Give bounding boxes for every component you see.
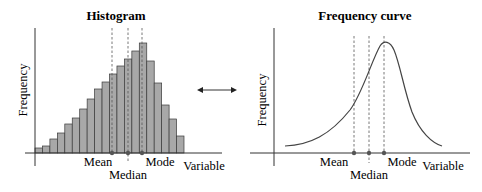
figure-canvas: Histogram Frequency Mean Median Mode Var… xyxy=(0,0,482,192)
histogram-bar xyxy=(42,146,49,153)
frequency-curve-line xyxy=(285,42,442,146)
curve-mean-dot xyxy=(352,151,356,155)
histogram-mode-label: Mode xyxy=(145,155,175,169)
frequency-curve-title: Frequency curve xyxy=(318,8,411,23)
histogram-median-label: Median xyxy=(109,168,148,182)
curve-y-label: Frequency xyxy=(255,73,269,127)
histogram-bar xyxy=(177,136,184,153)
curve-mean-label: Mean xyxy=(320,155,349,169)
histogram-bar xyxy=(50,139,57,153)
histogram-bar xyxy=(95,89,102,153)
histogram-bar xyxy=(65,124,72,153)
histogram-bar xyxy=(169,119,176,153)
histogram-median-dot xyxy=(126,151,130,155)
histogram-mode-dot xyxy=(140,151,144,155)
histogram-title: Histogram xyxy=(86,8,145,23)
curve-mode-label: Mode xyxy=(387,155,417,169)
histogram-bar xyxy=(110,74,117,153)
histogram-bar xyxy=(72,118,79,153)
histogram-x-label: Variable xyxy=(183,159,225,173)
curve-x-label: Variable xyxy=(422,159,464,173)
curve-mode-dot xyxy=(382,151,386,155)
curve-median-dot xyxy=(367,151,371,155)
histogram-bar xyxy=(117,66,124,153)
histogram-bar xyxy=(162,105,169,153)
histogram-bar xyxy=(147,61,154,153)
double-headed-arrow-icon xyxy=(197,87,237,93)
histogram-bar xyxy=(57,133,64,153)
histogram-y-label: Frequency xyxy=(16,63,30,117)
frequency-curve-panel: Frequency curve Frequency Mean Median Mo… xyxy=(250,8,470,182)
histogram-bar xyxy=(35,148,42,153)
histogram-mean-label: Mean xyxy=(84,155,113,169)
histogram-panel: Histogram Frequency Mean Median Mode Var… xyxy=(16,8,225,182)
histogram-bar xyxy=(80,109,87,153)
histogram-bars xyxy=(35,43,184,153)
histogram-bar xyxy=(132,51,139,153)
histogram-bar xyxy=(102,82,109,153)
histogram-bar xyxy=(139,43,146,153)
histogram-bar xyxy=(154,83,161,153)
histogram-bar xyxy=(87,99,94,153)
curve-median-label: Median xyxy=(350,168,389,182)
